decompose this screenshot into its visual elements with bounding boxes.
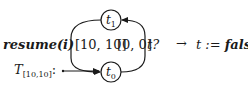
timed-automaton-diagram: t1 t0 resume(i) [10, 10] [0, 0] t? → t :… [0,0,248,87]
automaton-name-label: T[10,10]: [14,63,56,82]
assignment-variable: t := [196,37,225,52]
assignment-label: t := false [196,38,248,52]
query-label: t? [147,38,159,52]
resume-trigger-label: resume(i) [3,38,74,52]
initial-dot [62,70,64,72]
node-t0-label: t0 [101,65,121,84]
node-t1-label: t1 [101,13,121,32]
assignment-value: false [225,37,248,52]
transition-arrow-icon: → [176,37,187,51]
